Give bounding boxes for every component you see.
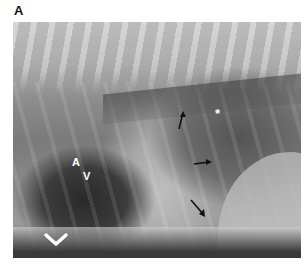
panel-label: A [14,3,23,18]
arrow-down-right-icon [189,199,209,219]
label-a: A [72,156,80,168]
star-marker: * [215,106,220,121]
radiograph-image: A V * [13,22,301,258]
chevron-down-icon [43,232,69,248]
arrow-up-icon [171,110,191,130]
arrow-right-icon [193,153,213,173]
label-v: V [83,170,90,182]
